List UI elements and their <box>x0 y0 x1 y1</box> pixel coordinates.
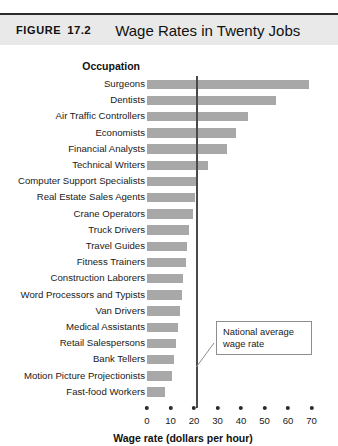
callout-leader-line <box>0 76 338 408</box>
x-tick-dot <box>309 406 313 410</box>
bar-chart: Occupation SurgeonsDentistsAir Traffic C… <box>0 52 338 442</box>
x-tick-label: 0 <box>144 415 149 426</box>
x-axis: 010203040506070 Wage rate (dollars per h… <box>0 406 338 446</box>
x-tick-dot <box>239 406 243 410</box>
x-tick-label: 70 <box>306 415 317 426</box>
x-tick-label: 50 <box>259 415 270 426</box>
x-tick-dot <box>192 406 196 410</box>
x-tick-label: 60 <box>283 415 294 426</box>
national-average-callout: National average wage rate <box>216 321 312 355</box>
x-tick-dot <box>215 406 219 410</box>
figure-header: FIGURE 17.2 Wage Rates in Twenty Jobs <box>0 13 338 45</box>
x-tick-label: 30 <box>212 415 223 426</box>
x-tick-dot <box>145 406 149 410</box>
x-tick-label: 40 <box>236 415 247 426</box>
figure-number: 17.2 <box>67 24 91 36</box>
x-tick-label: 20 <box>189 415 200 426</box>
figure-label: FIGURE <box>16 24 61 36</box>
plot-area: SurgeonsDentistsAir Traffic ControllersE… <box>0 76 338 408</box>
x-tick-dot <box>262 406 266 410</box>
x-tick-dot <box>168 406 172 410</box>
figure-title: Wage Rates in Twenty Jobs <box>115 22 300 39</box>
y-axis-title: Occupation <box>0 60 140 72</box>
x-tick-dot <box>286 406 290 410</box>
x-axis-title: Wage rate (dollars per hour) <box>0 432 338 444</box>
x-tick-label: 10 <box>165 415 176 426</box>
